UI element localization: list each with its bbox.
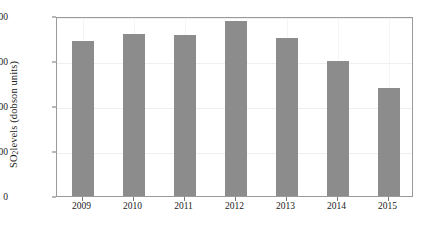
bar-2012 xyxy=(225,21,247,197)
y-axis-title: SO2 levels (dobson units) xyxy=(0,0,26,229)
bar-2010 xyxy=(123,34,145,196)
plot-area xyxy=(56,17,413,197)
x-tick-label: 2012 xyxy=(205,201,265,211)
gridline xyxy=(57,18,412,19)
x-tick-label: 2011 xyxy=(154,201,214,211)
x-tick-mark xyxy=(184,197,185,201)
bar-2011 xyxy=(174,35,196,196)
bar-2009 xyxy=(72,41,94,196)
x-tick-mark xyxy=(133,197,134,201)
x-tick-mark xyxy=(337,197,338,201)
bar-2014 xyxy=(327,61,349,196)
x-tick-label: 2010 xyxy=(103,201,163,211)
bar-2015 xyxy=(378,88,400,196)
y-axis-title-pre: SO xyxy=(8,154,19,168)
bar-2013 xyxy=(276,38,298,196)
y-axis-title-subscript: 2 xyxy=(11,151,20,155)
x-tick-label: 2013 xyxy=(256,201,316,211)
x-tick-mark xyxy=(82,197,83,201)
bar-chart: SO2 levels (dobson units) 01000200030004… xyxy=(0,0,425,229)
x-tick-label: 2009 xyxy=(52,201,112,211)
x-tick-mark xyxy=(388,197,389,201)
x-tick-label: 2014 xyxy=(307,201,367,211)
x-tick-mark xyxy=(235,197,236,201)
x-tick-mark xyxy=(286,197,287,201)
y-axis-title-post: levels (dobson units) xyxy=(8,61,19,151)
x-tick-label: 2015 xyxy=(358,201,418,211)
